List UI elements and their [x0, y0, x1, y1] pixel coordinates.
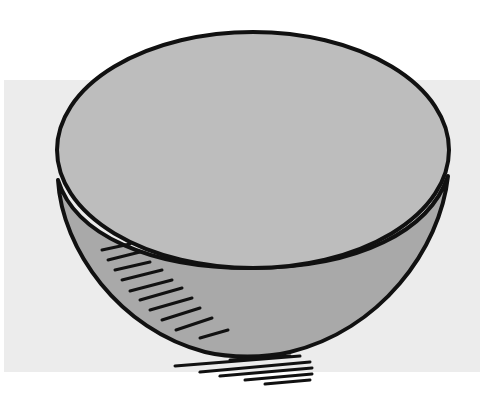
bowl-illustration — [0, 0, 486, 419]
shadow-scribbles — [175, 356, 312, 384]
bowl-top-face — [57, 32, 449, 268]
